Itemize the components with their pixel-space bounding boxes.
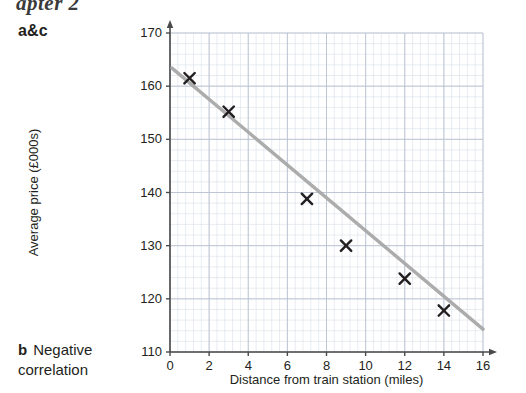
x-tick-label: 8 — [315, 358, 339, 373]
x-tick-label: 16 — [471, 358, 495, 373]
x-axis-title: Distance from train station (miles) — [170, 372, 483, 387]
y-tick-label: 150 — [128, 131, 162, 146]
y-tick-label: 110 — [128, 344, 162, 359]
answer-page: apter 2 a&c bNegative correlation 110120… — [0, 0, 526, 393]
y-tick-label: 160 — [128, 78, 162, 93]
x-tick-label: 14 — [432, 358, 456, 373]
y-tick-label: 130 — [128, 238, 162, 253]
x-tick-label: 10 — [354, 358, 378, 373]
x-tick-label: 0 — [158, 358, 182, 373]
y-axis-title: Average price (£000s) — [26, 103, 41, 283]
x-tick-label: 4 — [236, 358, 260, 373]
data-points — [184, 73, 449, 316]
y-tick-label: 120 — [128, 291, 162, 306]
x-tick-label: 6 — [275, 358, 299, 373]
scatter-chart — [0, 0, 526, 393]
x-tick-label: 2 — [197, 358, 221, 373]
y-tick-label: 170 — [128, 25, 162, 40]
y-tick-label: 140 — [128, 185, 162, 200]
x-tick-label: 12 — [393, 358, 417, 373]
